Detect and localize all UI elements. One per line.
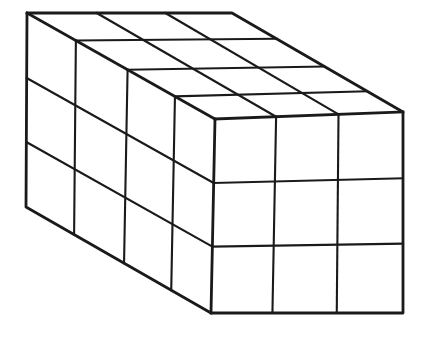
top-grid-line (128, 66, 325, 69)
front-grid-line (337, 114, 339, 313)
cuboid-diagram (0, 0, 425, 346)
front-grid-line (272, 117, 276, 313)
left-grid-line (26, 142, 212, 247)
left-grid-line (74, 41, 76, 235)
front-grid-line (214, 178, 403, 183)
front-grid-line (212, 244, 403, 247)
top-grid-line (97, 13, 276, 117)
internal-edges (27, 13, 403, 313)
left-grid-line (27, 78, 214, 183)
top-grid-line (175, 91, 367, 96)
left-grid-line (171, 96, 175, 290)
box-edge (215, 112, 403, 119)
diagram-canvas (0, 0, 425, 346)
left-face-grid (26, 41, 213, 291)
front-face-grid (212, 114, 403, 313)
top-grid-line (76, 39, 277, 41)
box-edge (211, 119, 215, 313)
top-grid-line (165, 13, 338, 114)
left-grid-line (124, 70, 128, 263)
